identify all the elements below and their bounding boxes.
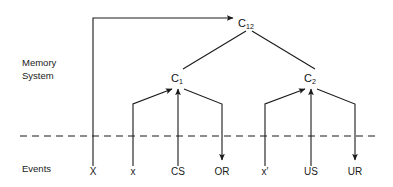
event-label-xprime: x′ [262, 166, 269, 177]
event-label-x: x [131, 166, 136, 177]
memory-system-label-line1: Memory [22, 57, 57, 68]
event-label-UR: UR [348, 166, 362, 177]
events-label: Events [22, 163, 51, 174]
memory-system-diagram: Memory System Events C 12 C 1 C 2 [0, 0, 393, 187]
connection-xprime-to-C2 [265, 89, 305, 166]
node-C1-subscript: 1 [179, 78, 183, 85]
node-C12-subscript: 12 [246, 23, 254, 30]
node-C2-base: C [304, 72, 312, 84]
event-label-CS: CS [171, 166, 185, 177]
connection-C1-to-OR [184, 89, 222, 160]
event-label-OR: OR [215, 166, 230, 177]
node-C2-subscript: 2 [312, 78, 316, 85]
diagram-canvas: Memory System Events C 12 C 1 C 2 [0, 0, 393, 187]
node-C1-base: C [171, 72, 179, 84]
connection-C12-to-C1 [183, 31, 246, 69]
event-label-X: X [90, 166, 97, 177]
connection-x-to-C1 [133, 89, 172, 166]
node-C12-base: C [238, 17, 246, 29]
node-C1: C 1 [171, 72, 183, 85]
event-label-US: US [304, 166, 318, 177]
node-C2: C 2 [304, 72, 316, 85]
connection-C2-to-UR [317, 89, 355, 160]
memory-system-label-line2: System [22, 70, 54, 81]
node-C12: C 12 [238, 17, 254, 30]
connection-C12-to-C2 [252, 31, 315, 69]
